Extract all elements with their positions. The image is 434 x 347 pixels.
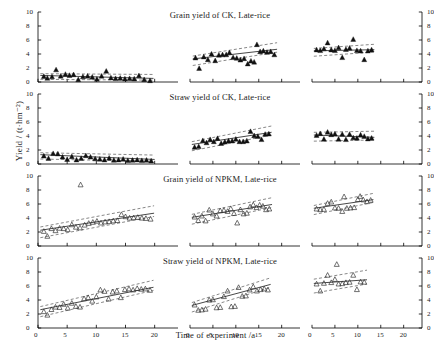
data-point — [197, 66, 202, 71]
x-tick-label: 20 — [278, 332, 285, 339]
y-tick-label: 2 — [26, 65, 30, 72]
data-point — [98, 287, 103, 292]
y-tick-label: 0 — [427, 161, 431, 168]
data-point — [94, 219, 99, 224]
data-point — [55, 151, 60, 156]
data-point — [342, 194, 347, 199]
data-point — [136, 73, 141, 78]
y-tick-label: 6 — [427, 119, 431, 126]
y-tick-label: 8 — [26, 269, 30, 276]
confidence-band-lower — [40, 290, 153, 316]
data-point — [334, 262, 339, 267]
data-point — [65, 227, 70, 232]
y-tick-label: 6 — [26, 201, 30, 208]
confidence-band-upper — [314, 131, 375, 132]
panel-r3-c2 — [312, 258, 422, 328]
data-point — [232, 304, 237, 309]
data-point — [352, 205, 357, 210]
panel-r1-c2 — [312, 94, 422, 164]
data-point — [358, 48, 363, 53]
data-point — [227, 50, 232, 55]
x-tick-label: 0 — [186, 332, 190, 339]
y-tick-label: 4 — [26, 133, 30, 140]
y-tick-label: 10 — [26, 255, 33, 262]
data-point — [114, 288, 119, 293]
y-tick-label: 8 — [26, 23, 30, 30]
data-point — [135, 286, 140, 291]
x-tick-label: 10 — [92, 332, 99, 339]
y-tick-label: 2 — [26, 147, 30, 154]
data-point — [325, 273, 330, 278]
data-point — [46, 156, 51, 161]
data-point — [251, 284, 256, 289]
data-point — [119, 212, 124, 217]
panel-r1-c1 — [190, 126, 300, 164]
data-point — [41, 74, 46, 79]
x-tick-label: 15 — [122, 332, 129, 339]
data-point — [336, 206, 341, 211]
data-point — [358, 132, 363, 137]
data-point — [201, 54, 206, 59]
data-point — [343, 137, 348, 142]
y-tick-label: 10 — [427, 173, 434, 180]
y-tick-label: 2 — [26, 311, 30, 318]
confidence-band-upper — [314, 270, 367, 279]
data-point — [347, 280, 352, 285]
data-point — [41, 153, 46, 158]
y-tick-label: 8 — [26, 187, 30, 194]
data-point — [362, 57, 367, 62]
panel-r2-c2 — [312, 176, 422, 246]
y-tick-label: 10 — [26, 91, 33, 98]
x-tick-label: 0 — [308, 332, 312, 339]
x-tick-label: 20 — [151, 332, 158, 339]
data-point — [254, 42, 259, 47]
data-point — [65, 157, 70, 162]
data-point — [142, 77, 147, 82]
data-point — [332, 277, 337, 282]
confidence-band-upper — [40, 280, 153, 306]
y-tick-label: 2 — [427, 229, 431, 236]
y-tick-label: 8 — [427, 187, 431, 194]
panel-title: Straw yield of CK, Late-rice — [120, 92, 320, 102]
y-tick-label: 10 — [427, 9, 434, 16]
data-point — [76, 77, 81, 82]
data-point — [113, 76, 118, 81]
data-point — [369, 136, 374, 141]
data-point — [242, 56, 247, 61]
y-tick-label: 0 — [26, 243, 30, 250]
y-tick-label: 10 — [427, 255, 434, 262]
x-tick-label: 0 — [34, 332, 38, 339]
data-point — [135, 157, 140, 162]
y-tick-label: 4 — [26, 215, 30, 222]
y-tick-label: 4 — [427, 297, 431, 304]
data-point — [104, 69, 109, 74]
data-point — [336, 137, 341, 142]
data-point — [340, 132, 345, 137]
data-point — [78, 225, 83, 230]
data-point — [318, 131, 323, 136]
data-point — [71, 72, 76, 77]
y-tick-label: 4 — [26, 51, 30, 58]
y-tick-label: 0 — [427, 243, 431, 250]
y-tick-label: 4 — [26, 297, 30, 304]
data-point — [351, 273, 356, 278]
data-point — [218, 305, 223, 310]
data-point — [127, 286, 132, 291]
y-tick-label: 10 — [26, 9, 33, 16]
data-point — [340, 55, 345, 60]
data-point — [132, 76, 137, 81]
data-point — [336, 45, 341, 50]
data-point — [325, 40, 330, 45]
panel-title: Straw yield of NPKM, Late-rice — [120, 256, 320, 266]
y-tick-label: 8 — [427, 105, 431, 112]
x-tick-label: 15 — [377, 332, 384, 339]
data-point — [203, 218, 208, 223]
x-tick-label: 10 — [232, 332, 239, 339]
y-tick-label: 6 — [26, 37, 30, 44]
y-tick-label: 8 — [427, 269, 431, 276]
panel-title: Grain yield of CK, Late-rice — [120, 10, 320, 20]
confidence-band-lower — [192, 287, 271, 312]
x-tick-label: 20 — [400, 332, 407, 339]
data-point — [321, 137, 326, 142]
